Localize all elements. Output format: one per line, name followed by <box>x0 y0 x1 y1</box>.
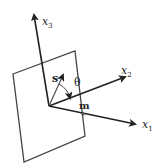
s-label: s <box>52 72 58 85</box>
m-point <box>81 112 84 115</box>
x3-axis-label: x3 <box>42 15 53 30</box>
coordinate-diagram: x3 x2 x1 s θ m <box>0 0 158 168</box>
theta-arc <box>59 84 70 98</box>
m-label: m <box>79 100 90 111</box>
x2-axis-label: x2 <box>121 64 132 79</box>
x1-axis-label: x1 <box>142 118 153 133</box>
x3-axis <box>34 15 49 106</box>
theta-label: θ <box>74 76 81 89</box>
x1-axis <box>49 106 135 124</box>
